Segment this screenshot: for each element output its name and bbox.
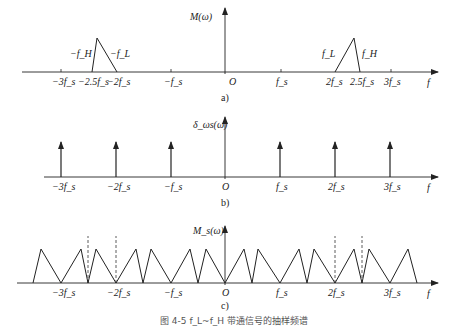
panel-c: M_s(ω) −3f_s −2f_s −f_s O f_s 2f_s 3f_s …: [17, 225, 438, 312]
svg-text:−f_s: −f_s: [164, 287, 183, 298]
figure-caption: 图 4-5 f_L~f_H 带通信号的抽样频谱: [160, 315, 308, 326]
svg-text:−f_s: −f_s: [164, 181, 183, 192]
svg-text:−f_s: −f_s: [164, 76, 183, 87]
panel-c-label: c): [221, 300, 229, 312]
svg-text:2f_s: 2f_s: [328, 287, 345, 298]
svg-text:−3f_s: −3f_s: [52, 181, 76, 192]
svg-text:f: f: [427, 77, 431, 88]
svg-text:−3f_s: −3f_s: [52, 76, 76, 87]
panel-a-label: a): [221, 92, 229, 104]
svg-text:f_s: f_s: [276, 287, 288, 298]
svg-text:O: O: [222, 287, 229, 298]
annot-neg-fl: −f_L: [110, 48, 131, 59]
svg-text:−2f_s: −2f_s: [107, 76, 131, 87]
svg-text:O: O: [222, 181, 229, 192]
svg-text:2f_s: 2f_s: [326, 76, 343, 87]
y-label: M_s(ω): [192, 225, 225, 237]
panel-b-label: b): [221, 197, 229, 209]
panel-b: δ_ωs(ω) −3f_s −2f_s −f_s O f_s 2f_s 3f_s…: [44, 117, 438, 209]
svg-text:f: f: [427, 182, 431, 193]
svg-text:3f_s: 3f_s: [383, 181, 401, 192]
svg-text:f: f: [427, 288, 431, 299]
annot-pos-fh: f_H: [362, 48, 378, 59]
annot-pos-fl: f_L: [322, 48, 336, 59]
svg-text:−2f_s: −2f_s: [107, 181, 131, 192]
diagram-canvas: M(ω) −f_H −f_L f_L f_H −3f_s −2.5f_s −2f…: [0, 0, 452, 327]
y-label: δ_ωs(ω): [193, 119, 228, 131]
svg-text:−2f_s: −2f_s: [107, 287, 131, 298]
svg-text:2.5f_s: 2.5f_s: [350, 76, 374, 87]
tick-labels: −3f_s −2.5f_s −2f_s −f_s O f_s 2f_s 2.5f…: [52, 76, 431, 88]
panel-a: M(ω) −f_H −f_L f_L f_H −3f_s −2.5f_s −2f…: [22, 8, 438, 104]
svg-text:3f_s: 3f_s: [383, 287, 401, 298]
svg-text:f_s: f_s: [276, 76, 288, 87]
svg-text:3f_s: 3f_s: [383, 76, 401, 87]
svg-text:O: O: [229, 76, 236, 87]
impulses: [61, 142, 390, 177]
y-label: M(ω): [189, 11, 213, 23]
tick-labels: −3f_s −2f_s −f_s O f_s 2f_s 3f_s f: [52, 181, 431, 193]
svg-text:−2.5f_s: −2.5f_s: [78, 76, 109, 87]
svg-text:−3f_s: −3f_s: [52, 287, 76, 298]
tick-labels: −3f_s −2f_s −f_s O f_s 2f_s 3f_s f: [52, 287, 431, 299]
positive-band-triangle: [335, 38, 360, 72]
annot-neg-fh: −f_H: [70, 48, 93, 59]
svg-text:2f_s: 2f_s: [328, 181, 345, 192]
svg-text:f_s: f_s: [276, 181, 288, 192]
